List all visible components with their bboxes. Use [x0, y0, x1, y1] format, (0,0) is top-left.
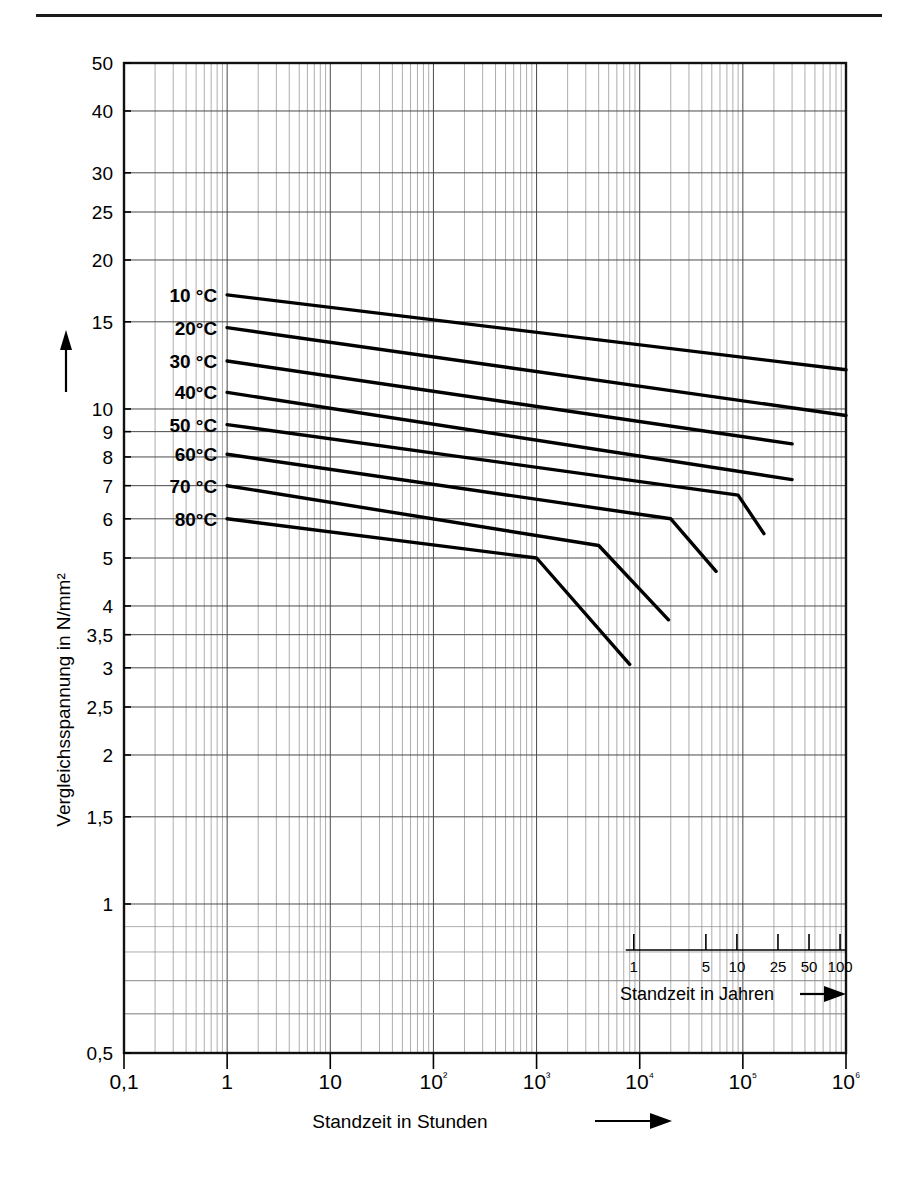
years-tick-label: 10	[729, 958, 746, 975]
y-axis-ticks	[124, 63, 131, 1053]
years-axis-title: Standzeit in Jahren	[620, 984, 774, 1004]
x-tick-label: 0,1	[109, 1070, 138, 1093]
chart-svg: 10 °C20°C30 °C40°C50 °C60°C70 °C80°C 504…	[0, 0, 918, 1179]
x-tick-label: 10⁴	[625, 1069, 654, 1093]
x-axis-ticks	[124, 1053, 846, 1069]
svg-text:0,1: 0,1	[109, 1070, 138, 1093]
x-tick-label: 10⁵	[728, 1069, 757, 1093]
x-axis-title: Standzeit in Stunden	[312, 1111, 487, 1132]
y-tick-label: 15	[92, 312, 113, 333]
years-tick-label: 25	[770, 958, 787, 975]
y-tick-label: 40	[92, 101, 113, 122]
svg-text:10²: 10²	[420, 1069, 448, 1093]
y-tick-label: 8	[102, 447, 113, 468]
x-tick-label: 1	[221, 1070, 233, 1093]
secondary-years-axis: 15102550100Standzeit in Jahren	[620, 934, 853, 1004]
y-tick-label: 4	[102, 596, 113, 617]
x-tick-labels: 0,111010²10³10⁴10⁵10⁶	[109, 1069, 860, 1093]
svg-text:1: 1	[221, 1070, 233, 1093]
grid-major	[124, 63, 846, 1053]
y-tick-label: 3	[102, 658, 113, 679]
years-tick-label: 1	[630, 958, 638, 975]
y-tick-label: 9	[102, 422, 113, 443]
svg-text:10⁶: 10⁶	[832, 1069, 861, 1093]
x-tick-label: 10²	[420, 1069, 448, 1093]
svg-text:10⁵: 10⁵	[728, 1069, 757, 1093]
curve-labels: 10 °C20°C30 °C40°C50 °C60°C70 °C80°C	[169, 285, 217, 530]
years-tick-label: 100	[828, 958, 853, 975]
y-tick-label: 30	[92, 163, 113, 184]
y-axis-title: Vergleichsspannung in N/mm²	[53, 573, 74, 826]
x-tick-label: 10	[319, 1070, 342, 1093]
x-tick-label: 10⁶	[832, 1069, 861, 1093]
series-label: 10 °C	[169, 285, 217, 306]
y-tick-label: 5	[102, 548, 113, 569]
y-tick-label: 1,5	[87, 807, 113, 828]
y-tick-labels: 504030252015109876543,532,521,510,5	[87, 53, 114, 1064]
y-tick-label: 0,5	[87, 1043, 113, 1064]
years-tick-label: 5	[702, 958, 710, 975]
y-tick-label: 2	[102, 745, 113, 766]
y-axis-title-group: Vergleichsspannung in N/mm²	[53, 330, 74, 827]
y-tick-label: 2,5	[87, 697, 113, 718]
y-tick-label: 1	[102, 894, 113, 915]
series-label: 30 °C	[169, 351, 217, 372]
creep-rupture-chart: 10 °C20°C30 °C40°C50 °C60°C70 °C80°C 504…	[0, 0, 918, 1179]
series-label: 70 °C	[169, 476, 217, 497]
years-tick-label: 50	[801, 958, 818, 975]
x-axis-arrow-head	[650, 1113, 672, 1129]
series-label: 40°C	[175, 382, 218, 403]
x-tick-label: 10³	[523, 1069, 551, 1093]
series-line	[227, 454, 716, 571]
series-label: 60°C	[175, 444, 218, 465]
svg-text:10⁴: 10⁴	[625, 1069, 654, 1093]
years-axis-arrow-head	[824, 986, 846, 1002]
svg-text:10: 10	[319, 1070, 342, 1093]
svg-text:10³: 10³	[523, 1069, 551, 1093]
series-label: 20°C	[175, 318, 218, 339]
y-tick-label: 3,5	[87, 625, 113, 646]
y-tick-label: 25	[92, 202, 113, 223]
y-tick-label: 20	[92, 250, 113, 271]
x-axis-title-group: Standzeit in Stunden	[312, 1111, 672, 1132]
series-label: 50 °C	[169, 415, 217, 436]
y-tick-label: 6	[102, 509, 113, 530]
y-tick-label: 10	[92, 399, 113, 420]
y-tick-label: 50	[92, 53, 113, 74]
series-label: 80°C	[175, 509, 218, 530]
y-tick-label: 7	[102, 476, 113, 497]
y-axis-arrow-head	[60, 330, 72, 350]
series-line	[227, 486, 668, 620]
